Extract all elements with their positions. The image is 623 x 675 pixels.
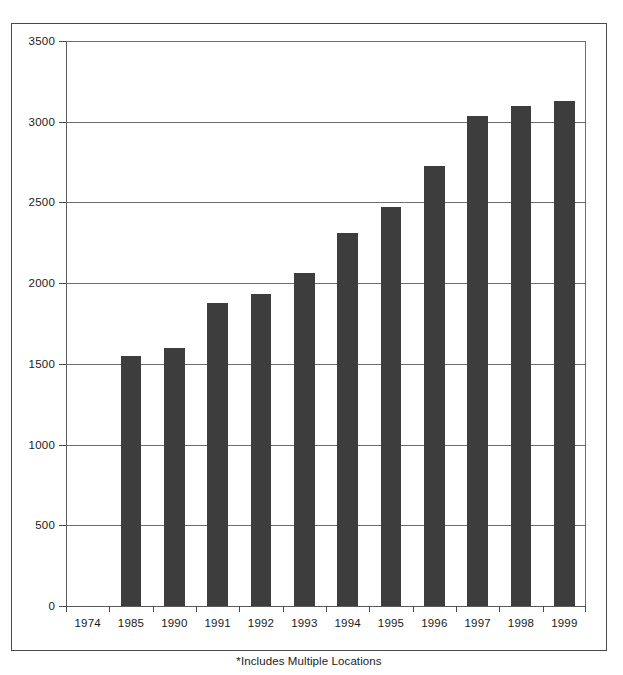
bar-1997[interactable] [467, 116, 487, 606]
y-tick-label-2000: 2000 [29, 277, 55, 289]
bar-1992[interactable] [251, 294, 271, 606]
x-tick-label-1998: 1998 [508, 617, 534, 629]
x-tick-label-1992: 1992 [248, 617, 274, 629]
x-tick-mark-11 [543, 606, 544, 612]
x-tick-label-1995: 1995 [378, 617, 404, 629]
y-tick-mark-3000 [59, 122, 66, 123]
y-tick-mark-2500 [59, 202, 66, 203]
chart-footnote: *Includes Multiple Locations [12, 655, 606, 667]
x-tick-mark-2 [153, 606, 154, 612]
x-tick-mark-1 [109, 606, 110, 612]
y-axis-line [66, 41, 67, 606]
y-tick-label-500: 500 [35, 519, 55, 531]
gridline-1500 [66, 364, 586, 365]
chart-frame: 0500100015002000250030003500 19741985199… [11, 23, 607, 651]
bar-1998[interactable] [511, 106, 531, 606]
x-tick-mark-8 [413, 606, 414, 612]
gridline-3000 [66, 122, 586, 123]
y-tick-label-3000: 3000 [29, 116, 55, 128]
gridline-2000 [66, 283, 586, 284]
plot-right-border [585, 41, 586, 606]
bar-1999[interactable] [554, 101, 574, 606]
x-tick-label-1993: 1993 [291, 617, 317, 629]
gridline-2500 [66, 202, 586, 203]
x-tick-mark-12 [585, 606, 586, 612]
y-tick-label-3500: 3500 [29, 35, 55, 47]
x-tick-label-1991: 1991 [204, 617, 230, 629]
x-tick-label-1997: 1997 [464, 617, 490, 629]
x-tick-label-1994: 1994 [334, 617, 360, 629]
y-tick-mark-2000 [59, 283, 66, 284]
bar-1995[interactable] [381, 207, 401, 606]
x-tick-label-1990: 1990 [161, 617, 187, 629]
plot-area: 0500100015002000250030003500 19741985199… [66, 41, 586, 606]
bar-1991[interactable] [207, 303, 227, 606]
x-tick-mark-10 [499, 606, 500, 612]
x-tick-mark-6 [326, 606, 327, 612]
gridline-500 [66, 525, 586, 526]
bar-1993[interactable] [294, 273, 314, 606]
gridline-3500 [66, 41, 586, 42]
x-tick-label-1999: 1999 [551, 617, 577, 629]
x-tick-mark-3 [196, 606, 197, 612]
x-tick-mark-5 [283, 606, 284, 612]
x-tick-mark-7 [369, 606, 370, 612]
y-tick-mark-1000 [59, 445, 66, 446]
x-tick-label-1985: 1985 [118, 617, 144, 629]
bar-1985[interactable] [121, 356, 141, 606]
y-tick-mark-3500 [59, 41, 66, 42]
y-tick-mark-1500 [59, 364, 66, 365]
x-tick-label-1996: 1996 [421, 617, 447, 629]
y-tick-label-1500: 1500 [29, 358, 55, 370]
x-tick-label-1974: 1974 [74, 617, 100, 629]
bar-1990[interactable] [164, 348, 184, 606]
bar-1994[interactable] [337, 233, 357, 606]
x-tick-mark-4 [239, 606, 240, 612]
gridline-1000 [66, 445, 586, 446]
y-tick-label-2500: 2500 [29, 196, 55, 208]
x-tick-mark-9 [456, 606, 457, 612]
y-tick-mark-0 [59, 606, 66, 607]
y-tick-label-1000: 1000 [29, 439, 55, 451]
x-tick-mark-0 [66, 606, 67, 612]
bar-1996[interactable] [424, 166, 444, 606]
y-tick-mark-500 [59, 525, 66, 526]
y-tick-label-0: 0 [48, 600, 55, 612]
